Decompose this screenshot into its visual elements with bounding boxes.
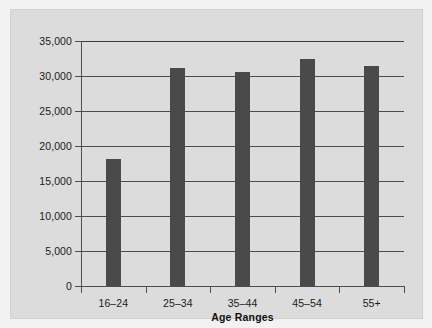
x-axis-tick <box>404 286 405 293</box>
bar[interactable] <box>364 66 379 287</box>
y-axis-tick-label: 0 <box>66 280 72 292</box>
bar[interactable] <box>235 72 250 286</box>
x-axis-tick-label: 25–34 <box>163 297 193 309</box>
x-axis-tick-label: 45–54 <box>292 297 322 309</box>
bar[interactable] <box>170 68 185 286</box>
x-axis-tick <box>275 286 276 293</box>
y-axis-tick-label: 5,000 <box>45 245 72 257</box>
plot-area <box>81 41 404 286</box>
x-axis-tick-label: 55+ <box>363 297 381 309</box>
x-axis-title: Age Ranges <box>81 311 404 323</box>
bar[interactable] <box>106 159 121 286</box>
y-axis-tick-label: 30,000 <box>39 70 72 82</box>
y-axis-tick-label: 35,000 <box>39 35 72 47</box>
x-axis-tick-label: 16–24 <box>98 297 128 309</box>
chart-panel: 05,00010,00015,00020,00025,00030,00035,0… <box>11 10 422 318</box>
chart-figure: 05,00010,00015,00020,00025,00030,00035,0… <box>0 0 432 328</box>
x-axis-tick <box>146 286 147 293</box>
x-axis-tick <box>210 286 211 293</box>
y-axis-tick-label: 15,000 <box>39 175 72 187</box>
y-axis-tick-label: 25,000 <box>39 105 72 117</box>
x-axis-tick-label: 35–44 <box>228 297 258 309</box>
bar[interactable] <box>300 59 315 287</box>
x-axis-tick <box>339 286 340 293</box>
x-axis-tick <box>81 286 82 293</box>
y-axis-tick-label: 10,000 <box>39 210 72 222</box>
y-axis-tick-label: 20,000 <box>39 140 72 152</box>
x-axis-line <box>81 286 404 287</box>
